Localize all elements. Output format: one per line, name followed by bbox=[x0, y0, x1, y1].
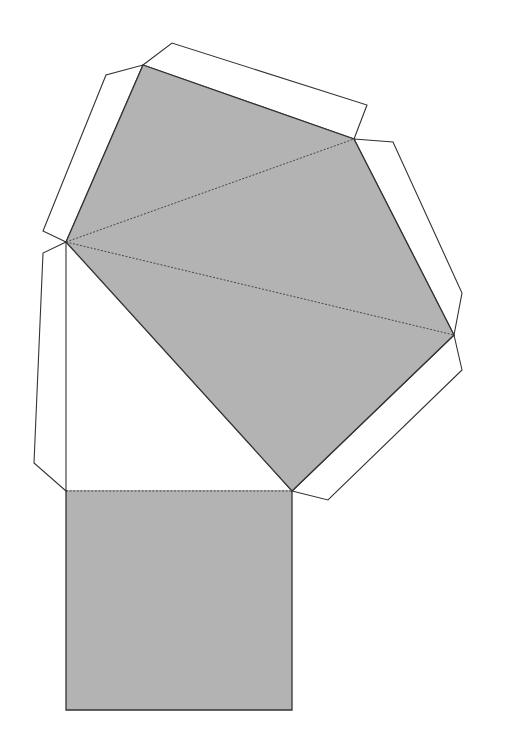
glue-tab-4 bbox=[34, 242, 66, 491]
square-face bbox=[66, 491, 292, 710]
paper-net-diagram bbox=[0, 0, 512, 752]
